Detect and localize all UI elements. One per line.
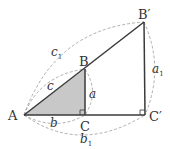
label-side-c: c — [47, 79, 54, 93]
label-side-a: a — [89, 87, 96, 101]
label-side-c1: c1 — [51, 45, 62, 61]
line-b-prime-c-prime — [144, 22, 145, 115]
label-side-b: b — [50, 116, 58, 130]
label-point-b: B — [79, 54, 89, 69]
label-point-a: A — [7, 108, 18, 123]
label-point-b-prime: B′ — [138, 7, 151, 22]
similar-triangles-diagram: A B C B′ C′ c a b c1 a1 b1 — [0, 0, 170, 149]
label-point-c-prime: C′ — [149, 109, 162, 124]
label-side-a1: a1 — [152, 62, 164, 78]
